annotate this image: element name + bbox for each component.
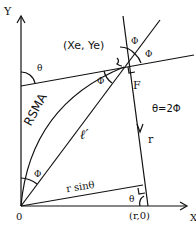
theta-bottom-label: θ xyxy=(129,195,134,204)
relation-label: θ=2Φ xyxy=(152,104,181,114)
x-axis-label: X xyxy=(190,213,196,223)
phi-top1-label: Φ xyxy=(131,37,138,46)
r-label: r xyxy=(148,134,153,145)
point-label: (Xe, Ye) xyxy=(63,40,104,51)
phi-mid-label: Φ xyxy=(97,77,104,86)
force-label: F xyxy=(133,80,141,91)
ell-label: ℓ′ xyxy=(80,128,88,141)
phi-top2-label: Φ xyxy=(145,50,152,59)
origin-label: 0 xyxy=(16,212,22,222)
r-point-label: (r,0) xyxy=(129,211,150,221)
y-axis-label: Y xyxy=(4,6,11,17)
phi-bottom-label: Φ xyxy=(34,170,41,179)
theta-top-label: θ xyxy=(37,64,42,73)
